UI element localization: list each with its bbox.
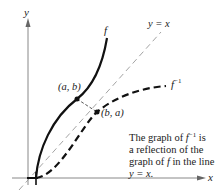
- inverse-function-diagram: y x y = x f f−1 (a, b) (b, a) The graph …: [0, 0, 221, 191]
- caption-line-4: y = x.: [128, 168, 153, 179]
- y-axis: y: [23, 6, 31, 185]
- point-ab-label: (a, b): [58, 81, 81, 93]
- y-axis-label: y: [23, 6, 29, 18]
- f-curve: [36, 38, 107, 178]
- caption-text: in the line: [170, 156, 215, 167]
- y-axis-arrow-icon: [26, 18, 31, 27]
- x-axis-label: x: [207, 171, 213, 183]
- point-ba-label: (b, a): [101, 107, 124, 119]
- caption-text: is: [196, 132, 206, 143]
- x-axis-arrow-icon: [197, 176, 206, 181]
- f-inverse-label: f−1: [171, 77, 182, 90]
- f-label: f: [104, 24, 109, 36]
- point-ba-marker: [95, 110, 100, 115]
- f-inverse-label-superscript: −1: [174, 77, 182, 85]
- caption-line-1: The graph of f−1 is: [129, 131, 206, 143]
- caption: The graph of f−1 is a reflection of the …: [128, 131, 215, 179]
- caption-line-3: graph of f in the line: [129, 156, 215, 167]
- caption-text: graph of: [129, 156, 167, 167]
- caption-text: The graph of: [129, 132, 186, 143]
- caption-line-2: a reflection of the: [129, 144, 204, 155]
- point-ab-marker: [75, 97, 80, 102]
- diagonal-label: y = x: [147, 18, 170, 29]
- reflection-connector: [77, 99, 97, 112]
